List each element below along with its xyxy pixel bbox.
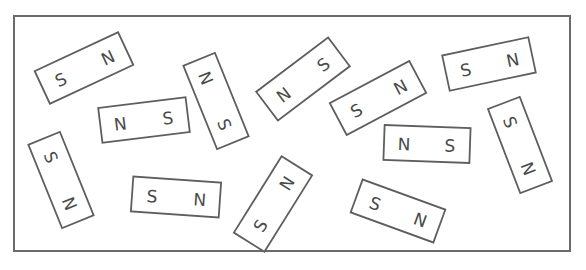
north-pole-label: N — [397, 134, 410, 154]
north-pole-label: N — [193, 189, 207, 210]
north-pole-label: N — [113, 113, 128, 134]
south-pole-label: S — [444, 136, 455, 156]
magnet-body — [131, 176, 221, 217]
magnet-body — [383, 125, 470, 163]
bar-magnet: NS — [383, 125, 470, 163]
bar-magnet: SN — [131, 176, 221, 217]
magnets-diagram: SNNSNSNSSNSNNSSNSNSNSNSN — [0, 0, 586, 270]
south-pole-label: S — [146, 186, 158, 207]
diagram-canvas: SNNSNSNSSNSNNSSNSNSNSNSN — [0, 0, 586, 270]
